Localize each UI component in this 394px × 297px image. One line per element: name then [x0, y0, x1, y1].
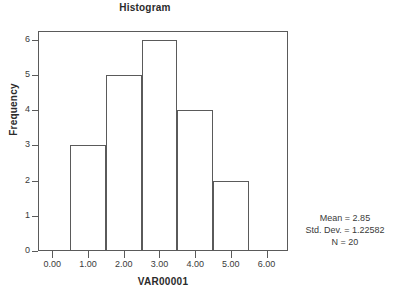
- x-axis-tick: [124, 251, 125, 258]
- histogram-bar: [177, 110, 213, 251]
- y-axis-tick: [32, 145, 38, 146]
- y-axis-tick-label: 0: [8, 246, 30, 255]
- x-axis-tick: [231, 251, 232, 258]
- x-axis-tick: [159, 251, 160, 258]
- x-axis-tick-label: 3.00: [139, 259, 179, 269]
- histogram-bar: [142, 40, 178, 251]
- y-axis-tick-label: 2: [8, 176, 30, 185]
- stat-std-dev: Std. Dev. = 1.22582: [298, 224, 392, 236]
- histogram-bar: [70, 145, 106, 251]
- x-axis-tick-label: 1.00: [68, 259, 108, 269]
- histogram-bar: [106, 75, 142, 251]
- x-axis-tick: [88, 251, 89, 258]
- histogram-chart: Histogram 0123456 Frequency 0.001.002.00…: [0, 0, 394, 297]
- x-axis-tick: [52, 251, 53, 258]
- y-axis-tick: [32, 75, 38, 76]
- x-axis-tick: [195, 251, 196, 258]
- histogram-bars: [38, 31, 288, 251]
- x-axis-tick-label: 4.00: [175, 259, 215, 269]
- histogram-bar: [213, 181, 249, 251]
- x-axis-tick-label: 2.00: [104, 259, 144, 269]
- y-axis-tick: [32, 251, 38, 252]
- y-axis-title: Frequency: [8, 65, 19, 155]
- y-axis-tick-label: 6: [8, 35, 30, 44]
- x-axis-tick-label: 6.00: [247, 259, 287, 269]
- x-axis-tick: [267, 251, 268, 258]
- y-axis-tick-label: 1: [8, 211, 30, 220]
- chart-title: Histogram: [0, 2, 290, 13]
- y-axis-tick: [32, 181, 38, 182]
- y-axis-tick: [32, 40, 38, 41]
- y-axis-tick: [32, 110, 38, 111]
- y-axis-tick: [32, 216, 38, 217]
- x-axis-tick-label: 5.00: [211, 259, 251, 269]
- x-axis-title: VAR00001: [38, 276, 288, 287]
- x-axis-tick-label: 0.00: [32, 259, 72, 269]
- stat-mean: Mean = 2.85: [298, 212, 392, 224]
- statistics-annotation: Mean = 2.85 Std. Dev. = 1.22582 N = 20: [298, 212, 392, 248]
- stat-n: N = 20: [298, 236, 392, 248]
